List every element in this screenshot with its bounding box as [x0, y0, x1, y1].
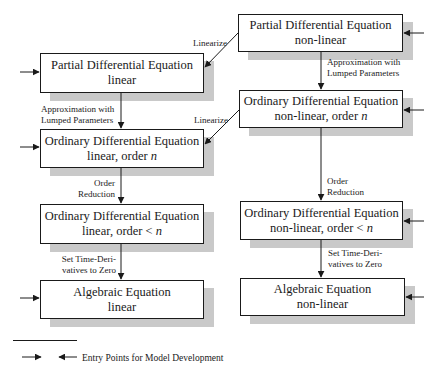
box-subtitle: non-linear, order < n [270, 221, 373, 236]
subtitle-text: linear, order < [82, 224, 156, 238]
box-subtitle: non-linear [295, 33, 346, 48]
order-variable: n [156, 224, 162, 238]
legend-text: Entry Points for Model Development [82, 352, 223, 364]
label-linearize-mid: Linearize [194, 115, 228, 126]
label-line: vatives to Zero [328, 259, 382, 270]
label-line: Set Time-Deri- [328, 248, 382, 259]
label-set-time-right: Set Time-Deri- vatives to Zero [328, 248, 382, 270]
subtitle-text: linear, order [87, 149, 151, 163]
box-subtitle: linear, order < n [82, 224, 162, 239]
label-line: vatives to Zero [60, 265, 116, 276]
box-title: Algebraic Equation [274, 282, 372, 297]
label-line: Set Time-Deri- [60, 254, 116, 265]
label-line: Approximation with [41, 104, 114, 115]
box-ode-nonlinear-order-lt-n: Ordinary Differential Equation non-linea… [240, 201, 403, 240]
box-title: Partial Differential Equation [51, 58, 193, 73]
box-title: Ordinary Differential Equation [45, 209, 200, 224]
box-title: Ordinary Differential Equation [244, 94, 399, 109]
box-subtitle: linear [108, 73, 136, 88]
box-ode-linear-order-lt-n: Ordinary Differential Equation linear, o… [40, 204, 204, 244]
box-ode-linear-order-n: Ordinary Differential Equation linear, o… [40, 129, 204, 168]
label-line: Reduction [77, 189, 115, 200]
label-line: Order [77, 178, 115, 189]
box-subtitle: linear [108, 300, 136, 315]
box-title: Ordinary Differential Equation [244, 206, 399, 221]
order-variable: n [151, 149, 157, 163]
box-title: Partial Differential Equation [249, 18, 391, 33]
subtitle-text: non-linear, order < [270, 221, 367, 235]
box-subtitle: linear, order n [87, 149, 157, 164]
label-approx-right: Approximation with Lumped Parameters [327, 57, 400, 79]
order-variable: n [361, 109, 367, 123]
label-line: Lumped Parameters [327, 68, 400, 79]
box-pde-linear: Partial Differential Equation linear [40, 53, 204, 93]
label-set-time-left: Set Time-Deri- vatives to Zero [60, 254, 116, 276]
label-line: Reduction [327, 187, 364, 198]
box-algebraic-nonlinear: Algebraic Equation non-linear [240, 278, 405, 316]
box-title: Ordinary Differential Equation [45, 134, 200, 149]
box-title: Algebraic Equation [73, 285, 171, 300]
legend-divider [13, 340, 77, 341]
subtitle-text: non-linear, order [275, 109, 362, 123]
box-pde-nonlinear: Partial Differential Equation non-linear [238, 14, 403, 52]
order-variable: n [367, 221, 373, 235]
label-approx-left: Approximation with Lumped Parameters [41, 104, 114, 126]
label-linearize-top: Linearize [193, 38, 227, 49]
label-order-reduction-left: Order Reduction [77, 178, 115, 200]
label-line: Lumped Parameters [41, 115, 114, 126]
label-line: Approximation with [327, 57, 400, 68]
label-line: Order [327, 176, 364, 187]
box-ode-nonlinear-order-n: Ordinary Differential Equation non-linea… [239, 90, 403, 128]
box-subtitle: non-linear, order n [275, 109, 368, 124]
box-algebraic-linear: Algebraic Equation linear [40, 280, 204, 319]
model-hierarchy-diagram: Partial Differential Equation non-linear… [0, 0, 438, 374]
box-subtitle: non-linear [297, 297, 348, 312]
label-order-reduction-right: Order Reduction [327, 176, 364, 198]
